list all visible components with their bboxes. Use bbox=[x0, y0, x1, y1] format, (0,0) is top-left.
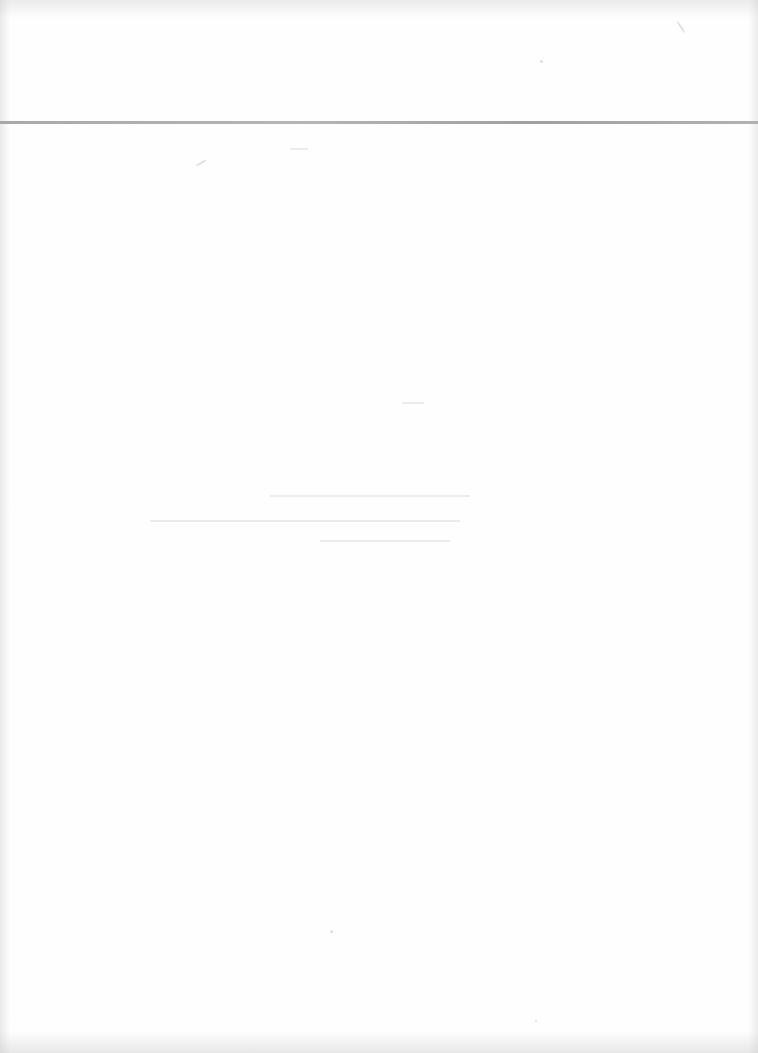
bleed-through-mark bbox=[270, 495, 470, 497]
scan-speck bbox=[535, 1020, 537, 1022]
bleed-through-mark bbox=[150, 520, 460, 522]
header-rule bbox=[0, 121, 758, 124]
bleed-through-mark bbox=[290, 148, 308, 150]
scan-speck bbox=[330, 930, 333, 933]
scan-speck bbox=[540, 60, 543, 63]
scan-speck bbox=[195, 159, 206, 167]
bleed-through-mark bbox=[320, 540, 450, 542]
scanned-page bbox=[0, 0, 758, 1053]
bleed-through-mark bbox=[402, 402, 424, 404]
scan-speck bbox=[676, 21, 686, 34]
